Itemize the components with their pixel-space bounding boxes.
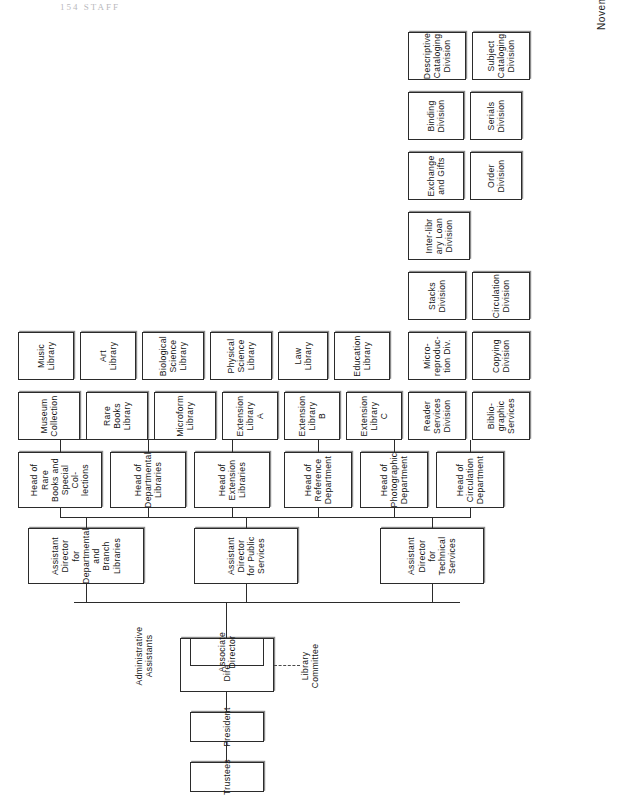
connector-spine-ad-public — [246, 584, 247, 603]
connector-bus-extension-libraries — [232, 508, 233, 518]
node-head-photographic: Head of Photographic Department — [360, 452, 428, 508]
node-head-departmental: Head of Departmental Libraries — [110, 452, 186, 508]
connector-assistant-directors-spine — [74, 602, 460, 603]
label-library-committee: Library Committee — [300, 624, 321, 708]
node-head-reference: Head of Reference Department — [284, 452, 352, 508]
node-physical-science-library: Physical Science Library — [210, 332, 272, 380]
connector-spine-ad-technical — [432, 584, 433, 603]
connector-photographic-out — [394, 440, 395, 452]
node-rare-books-library: Rare Books Library — [86, 392, 148, 440]
organization-chart: TrusteesPresidentDirectorAssociate Direc… — [8, 20, 553, 800]
connector-director-spine — [226, 602, 227, 638]
node-assistant-director-public: Assistant Director for Public Services — [194, 528, 298, 584]
connector-rare-books-out — [60, 440, 61, 452]
node-binding-division: Binding Division — [408, 92, 464, 140]
connector-bus-reference — [318, 508, 319, 518]
connector-rare-books-bus — [48, 439, 188, 440]
node-trustees: Trustees — [190, 762, 264, 792]
node-assistant-director-departmental: Assistant Director for Departmental and … — [28, 528, 144, 584]
node-stacks-division: Stacks Division — [408, 272, 466, 320]
node-president: President — [190, 712, 264, 742]
date-stamp: November 1964 — [596, 0, 607, 30]
node-circulation-division: Circulation Division — [472, 272, 530, 320]
node-head-extension: Head of Extension Libraries — [194, 452, 270, 508]
node-law-library: Law Library — [278, 332, 328, 380]
label-administrative-assistants: Administrative Assistants — [134, 604, 155, 708]
node-music-library: Music Library — [18, 332, 74, 380]
node-extension-library-b: Extension Library B — [284, 392, 340, 440]
node-biological-science-library: Biological Science Library — [142, 332, 204, 380]
connector-departmental-libraries-out — [148, 440, 149, 452]
connector-public-riser — [246, 517, 318, 518]
connector-bus-photographic — [394, 508, 395, 518]
connector-spine-ad-departmental — [86, 584, 87, 603]
connector-reference-out — [318, 440, 319, 452]
node-extension-library-c: Extension Library C — [346, 392, 402, 440]
node-reader-services: Reader Services Division — [408, 392, 466, 440]
connector-bus-rare-books — [60, 508, 61, 518]
connector-director-library-committee — [274, 665, 300, 666]
connector-bus-circulation — [470, 508, 471, 518]
node-exchange-and-gifts: Exchange and Gifts — [408, 152, 464, 200]
node-interlibrary-loan: Inter-libr ary Loan Division — [408, 212, 470, 260]
connector-public-out — [246, 518, 247, 528]
node-micro-reproduction: Micro- reproduc- tion Div. — [408, 332, 466, 380]
node-descriptive-cataloging: Descriptive Cataloging Division — [408, 32, 466, 80]
node-head-circulation: Head of Circulation Department — [436, 452, 504, 508]
connector-departmental-out — [86, 518, 87, 528]
node-order-division: Order Division — [470, 152, 522, 200]
connector-president-director — [226, 692, 227, 712]
connector-trustees-president — [226, 742, 227, 762]
node-education-library: Education Library — [334, 332, 390, 380]
node-microform-library: Microform Library — [154, 392, 216, 440]
node-subject-cataloging: Subject Cataloging Division — [472, 32, 530, 80]
running-head: 154 STAFF — [60, 2, 120, 12]
connector-bus-departmental-libraries — [148, 508, 149, 518]
node-extension-library-a: Extension Library A — [222, 392, 278, 440]
node-museum-collection: Museum Collection — [18, 392, 80, 440]
connector-departmental-bus — [60, 517, 252, 518]
node-copying-division: Copying Division — [472, 332, 530, 380]
node-head-rare-books: Head of Rare Books and Special Col- lect… — [18, 452, 102, 508]
connector-technical-out — [432, 518, 433, 528]
node-bibliographic-services: Biblio- graphic Services — [472, 392, 530, 440]
node-art-library: Art Library — [80, 332, 136, 380]
node-associate-director: Associate Director — [190, 638, 264, 666]
node-assistant-director-technical: Assistant Director for Technical Service… — [380, 528, 484, 584]
connector-circulation-out — [470, 440, 471, 452]
connector-extension-out — [232, 440, 233, 452]
node-serials-division: Serials Division — [470, 92, 522, 140]
